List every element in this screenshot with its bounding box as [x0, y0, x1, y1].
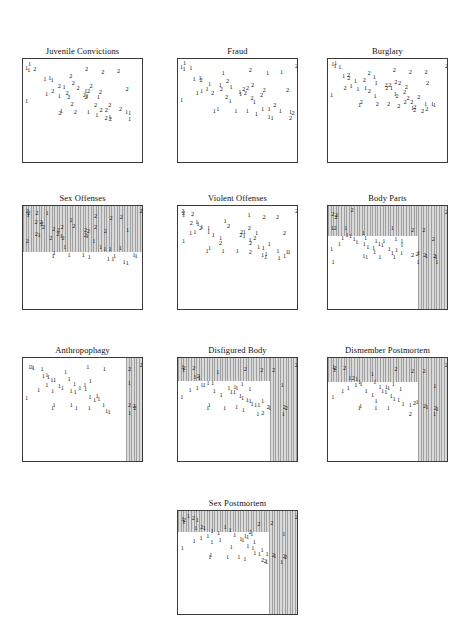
data-point-1: 1 [392, 381, 395, 387]
data-point-2: 2 [368, 70, 371, 76]
data-point-2: 2 [191, 211, 194, 217]
data-point-1: 1 [250, 531, 253, 537]
panel-disfigured-body: Disfigured Body1212222211211111111111111… [167, 345, 308, 468]
plot-area: 1111222221221121222122221211221121222221… [327, 58, 448, 163]
data-point-1: 1 [416, 259, 419, 265]
x-axis-tick [331, 461, 332, 462]
data-point-1: 1 [234, 108, 237, 114]
data-point-1: 1 [255, 111, 258, 117]
data-point-1: 1 [242, 407, 245, 413]
data-point-1: 1 [126, 260, 129, 266]
data-point-1: 1 [46, 210, 49, 216]
panel-fraud: Fraud11112211111221121211222211221222111… [167, 46, 308, 169]
data-point-1: 1 [32, 365, 35, 371]
data-point-1: 1 [253, 550, 256, 556]
data-point-1: 1 [84, 386, 87, 392]
data-point-1: 1 [330, 92, 333, 98]
panel-title: Anthropophagy [12, 345, 153, 355]
data-point-2: 2 [398, 80, 401, 86]
data-point-1: 1 [354, 382, 357, 388]
data-point-1: 1 [51, 252, 54, 258]
data-point-1: 1 [97, 396, 100, 402]
data-point-1: 1 [241, 537, 244, 543]
data-point-1: 1 [78, 385, 81, 391]
data-point-1: 1 [417, 250, 420, 256]
data-point-1: 1 [387, 405, 390, 411]
data-point-2: 2 [104, 228, 107, 234]
data-point-1: 1 [342, 73, 345, 79]
data-point-2: 2 [397, 103, 400, 109]
data-point-2: 2 [421, 108, 424, 114]
data-point-2: 2 [85, 66, 88, 72]
data-point-1: 1 [230, 544, 233, 550]
data-point-1: 1 [242, 233, 245, 239]
data-point-2: 2 [190, 220, 193, 226]
data-point-1: 1 [207, 229, 210, 235]
data-point-2: 2 [409, 68, 412, 74]
data-point-2: 2 [110, 215, 113, 221]
data-point-1: 1 [228, 527, 231, 533]
data-point-2: 2 [128, 401, 131, 407]
data-point-2: 2 [108, 102, 111, 108]
data-point-1: 1 [397, 397, 400, 403]
data-point-1: 1 [216, 105, 219, 111]
data-point-1: 1 [268, 405, 271, 411]
data-point-1: 1 [75, 404, 78, 410]
data-point-2: 2 [211, 90, 214, 96]
data-point-2: 2 [385, 85, 388, 91]
data-point-1: 1 [111, 256, 114, 262]
data-point-1: 1 [126, 227, 129, 233]
data-point-1: 1 [134, 253, 137, 259]
data-point-2: 2 [251, 82, 254, 88]
y-axis-tick [447, 381, 448, 382]
data-point-1: 1 [266, 70, 269, 76]
data-point-1: 1 [394, 235, 397, 241]
data-point-1: 1 [88, 393, 91, 399]
data-point-1: 1 [219, 392, 222, 398]
data-point-2: 2 [295, 514, 298, 520]
data-point-2: 2 [260, 92, 263, 98]
data-point-1: 1 [37, 387, 40, 393]
panel-title: Disfigured Body [167, 345, 308, 355]
data-point-2: 2 [219, 240, 222, 246]
data-point-1: 1 [401, 401, 404, 407]
data-point-1: 1 [356, 85, 359, 91]
plot-area: 1111211211111111111111111111111112221111… [22, 357, 143, 462]
data-point-1: 1 [108, 409, 111, 415]
data-point-1: 1 [331, 393, 334, 399]
data-point-2: 2 [411, 252, 414, 258]
data-point-1: 1 [358, 101, 361, 107]
panel-title: Fraud [167, 46, 308, 56]
data-point-2: 2 [109, 116, 112, 122]
data-point-2: 2 [249, 66, 252, 72]
data-point-2: 2 [249, 240, 252, 246]
data-point-2: 2 [425, 106, 428, 112]
data-point-2: 2 [104, 115, 107, 121]
data-point-2: 2 [248, 225, 251, 231]
data-point-2: 2 [284, 554, 287, 560]
data-point-1: 1 [280, 559, 283, 565]
data-point-1: 1 [210, 539, 213, 545]
data-point-1: 1 [341, 387, 344, 393]
data-point-1: 1 [196, 385, 199, 391]
data-point-1: 1 [182, 367, 185, 373]
data-point-1: 1 [107, 256, 110, 262]
data-point-2: 2 [333, 225, 336, 231]
data-point-2: 2 [285, 405, 288, 411]
data-point-1: 1 [233, 389, 236, 395]
data-point-2: 2 [94, 101, 97, 107]
data-point-1: 1 [282, 411, 285, 417]
data-point-1: 1 [347, 385, 350, 391]
data-point-2: 2 [409, 410, 412, 416]
data-point-2: 2 [445, 209, 448, 215]
data-point-1: 1 [333, 63, 336, 69]
data-point-2: 2 [253, 235, 256, 241]
data-point-1: 1 [50, 77, 53, 83]
panel-body-parts: Body Parts222221211221111111211111111111… [317, 193, 458, 316]
data-point-1: 1 [97, 94, 100, 100]
data-point-2: 2 [395, 93, 398, 99]
data-point-1: 1 [378, 254, 381, 260]
data-point-2: 2 [263, 214, 266, 220]
data-point-1: 1 [425, 252, 428, 258]
data-point-1: 1 [189, 230, 192, 236]
